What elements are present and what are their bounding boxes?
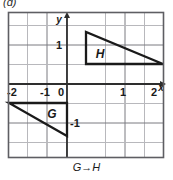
triangle-h-label: H bbox=[96, 47, 105, 61]
figure-panel: (d) bbox=[0, 0, 173, 180]
x-tick-label-2: 2 bbox=[151, 86, 157, 98]
coordinate-plane: x y -2 -1 0 1 2 1 -1 H G bbox=[0, 0, 173, 180]
x-tick-label-1: 1 bbox=[120, 86, 126, 98]
x-tick-label-neg1: -1 bbox=[40, 86, 50, 98]
triangle-g-label: G bbox=[47, 107, 56, 121]
y-tick-label-neg1: -1 bbox=[70, 117, 80, 129]
y-tick-label-1: 1 bbox=[56, 39, 62, 51]
transformation-caption: G→H bbox=[0, 161, 173, 174]
y-axis-label: y bbox=[55, 14, 62, 25]
x-tick-label-zero: 0 bbox=[58, 86, 64, 98]
